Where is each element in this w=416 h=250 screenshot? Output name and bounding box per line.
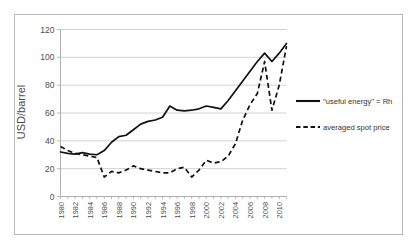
x-tick-label: 1994 — [159, 202, 168, 218]
y-tick-label: 60 — [45, 108, 55, 118]
x-tick-label: 2000 — [202, 202, 211, 218]
x-tick-label: 1990 — [129, 202, 138, 218]
y-axis — [57, 30, 61, 197]
series-line-1 — [61, 43, 287, 154]
y-tick-label: 20 — [45, 164, 55, 174]
y-tick-label: 100 — [40, 52, 54, 62]
legend-label-2: averaged spot price — [323, 123, 390, 132]
y-axis-tick-labels: 020406080100120 — [40, 25, 54, 202]
x-tick-label: 1986 — [100, 202, 109, 218]
x-tick-label: 2002 — [217, 202, 226, 218]
chart-figure: 020406080100120 198019821984198619881990… — [0, 0, 416, 250]
x-tick-label: 1988 — [115, 202, 124, 218]
line-chart: 020406080100120 198019821984198619881990… — [0, 0, 416, 250]
x-tick-label: 2006 — [246, 202, 255, 218]
series-useful-energy — [61, 43, 287, 154]
series-averaged-spot-price — [61, 46, 287, 177]
x-tick-label: 1996 — [173, 202, 182, 218]
x-axis — [61, 197, 287, 200]
x-tick-label: 1998 — [188, 202, 197, 218]
x-tick-label: 1984 — [86, 202, 95, 218]
chart-legend: "useful energy" = Rhaveraged spot price — [296, 97, 392, 132]
y-tick-label: 120 — [40, 25, 54, 35]
x-axis-tick-labels: 1980198219841986198819901992199419961998… — [57, 202, 285, 218]
y-tick-label: 40 — [45, 136, 55, 146]
y-tick-label: 0 — [50, 192, 55, 202]
x-tick-label: 2008 — [261, 202, 270, 218]
y-axis-title: USD/barrel — [15, 85, 27, 139]
y-tick-label: 80 — [45, 80, 55, 90]
x-tick-label: 1980 — [57, 202, 66, 218]
x-tick-label: 1992 — [144, 202, 153, 218]
x-tick-label: 1982 — [71, 202, 80, 218]
legend-label-1: "useful energy" = Rh — [323, 97, 392, 106]
x-tick-label: 2004 — [231, 202, 240, 218]
x-tick-label: 2010 — [275, 202, 284, 218]
series-line-2 — [61, 46, 287, 177]
